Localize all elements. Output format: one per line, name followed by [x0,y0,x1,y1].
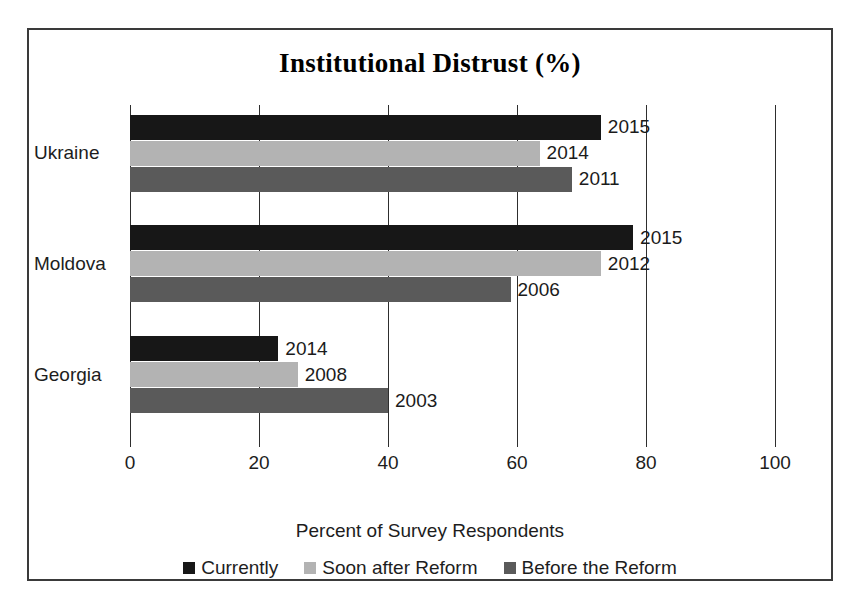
legend-swatch-icon [504,562,516,574]
bar-group: 201520122006 [130,216,775,327]
x-tick-mark [517,437,518,447]
legend-swatch-icon [304,562,316,574]
chart-figure: Institutional Distrust (%) 0204060801002… [27,28,833,581]
legend-label: Currently [201,557,278,579]
bar-value-label: 2014 [540,142,589,164]
bar-row: 2006 [130,277,775,302]
bar-row: 2008 [130,362,775,387]
bar[interactable] [130,362,298,387]
bar[interactable] [130,225,633,250]
bar-group: 201520142011 [130,105,775,216]
legend-item[interactable]: Before the Reform [504,557,677,579]
bar-value-label: 2006 [511,279,560,301]
legend-swatch-icon [183,562,195,574]
x-tick-label: 60 [506,452,527,474]
chart-legend: CurrentlySoon after ReformBefore the Ref… [29,557,831,579]
bar[interactable] [130,141,540,166]
x-tick-mark [388,437,389,447]
gridline [775,105,776,437]
x-tick-label: 40 [377,452,398,474]
bar[interactable] [130,115,601,140]
category-label-moldova: Moldova [34,253,106,275]
bar-value-label: 2015 [601,116,650,138]
bar-row: 2012 [130,251,775,276]
bar-value-label: 2008 [298,363,347,385]
bar[interactable] [130,277,511,302]
bar-value-label: 2012 [601,253,650,275]
bar-group: 201420082003 [130,326,775,437]
legend-item[interactable]: Soon after Reform [304,557,477,579]
plot-area: 020406080100201520142011Ukraine201520122… [130,105,775,437]
bar[interactable] [130,167,572,192]
bar-row: 2003 [130,388,775,413]
bar-row: 2011 [130,167,775,192]
x-tick-label: 20 [248,452,269,474]
bar-row: 2015 [130,225,775,250]
bar-value-label: 2014 [278,337,327,359]
x-tick-label: 100 [759,452,791,474]
bar[interactable] [130,336,278,361]
legend-label: Soon after Reform [322,557,477,579]
bar-row: 2014 [130,141,775,166]
legend-item[interactable]: Currently [183,557,278,579]
bar[interactable] [130,251,601,276]
bar-value-label: 2011 [572,168,620,190]
x-tick-label: 80 [635,452,656,474]
x-tick-mark [646,437,647,447]
x-tick-label: 0 [125,452,136,474]
legend-label: Before the Reform [522,557,677,579]
bar-value-label: 2015 [633,227,682,249]
category-label-ukraine: Ukraine [34,142,99,164]
chart-title: Institutional Distrust (%) [29,48,831,79]
bar[interactable] [130,388,388,413]
bar-value-label: 2003 [388,389,437,411]
bar-row: 2015 [130,115,775,140]
x-tick-mark [775,437,776,447]
category-label-georgia: Georgia [34,364,102,386]
bar-row: 2014 [130,336,775,361]
x-tick-mark [130,437,131,447]
x-axis-title: Percent of Survey Respondents [29,520,831,542]
x-tick-mark [259,437,260,447]
